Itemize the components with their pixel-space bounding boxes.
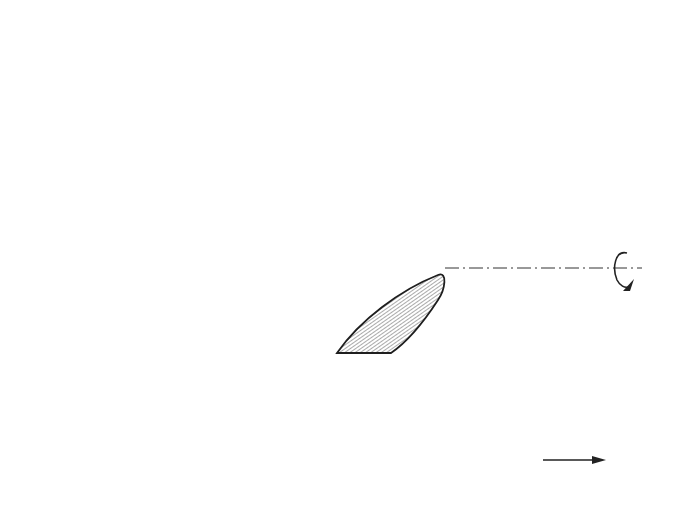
- rotation-arrow-icon: [615, 253, 634, 291]
- crack-surface: [337, 274, 444, 353]
- burgers-vector-arrow: [543, 456, 606, 464]
- mesh-diagram: [0, 0, 673, 531]
